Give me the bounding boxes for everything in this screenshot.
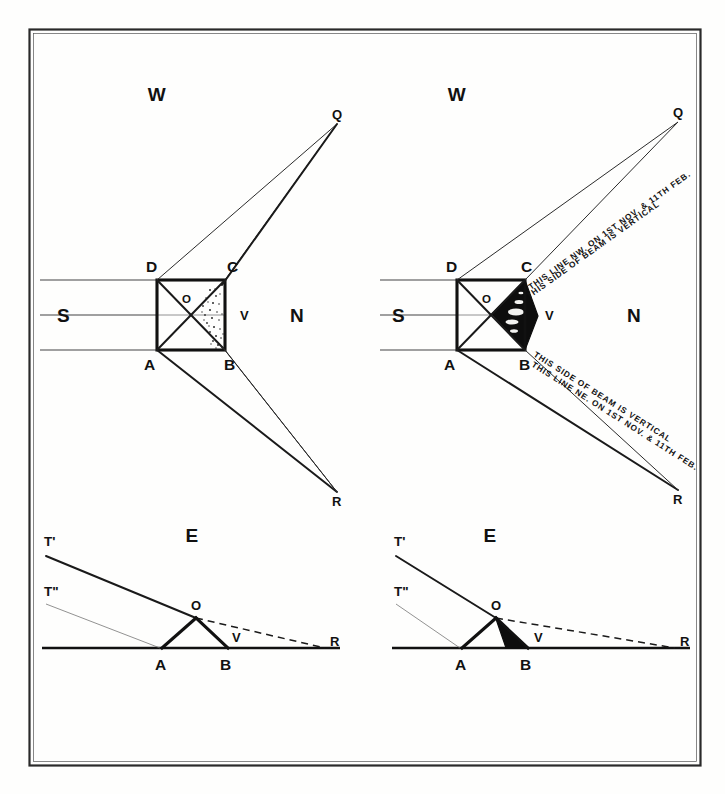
point-label-a-left: A	[144, 356, 155, 373]
point-label-t2-left: T"	[44, 584, 59, 599]
point-label-o-bl: O	[191, 598, 201, 613]
point-label-a-right: A	[444, 356, 455, 373]
compass-label-north-left: N	[290, 305, 304, 326]
point-label-a-br: A	[455, 656, 466, 673]
point-label-c-left: C	[227, 258, 238, 275]
point-label-v-left: V	[240, 308, 249, 323]
point-label-r-br: R	[680, 634, 690, 649]
point-label-t1-left: T'	[44, 534, 55, 549]
point-label-r-left: R	[332, 494, 342, 509]
point-label-q-right: Q	[673, 105, 683, 120]
figure-sheet: W S N D C A B O V Q R	[0, 0, 725, 794]
compass-label-north-right: N	[627, 305, 641, 326]
point-label-v-bl: V	[232, 630, 241, 645]
point-label-o-right: O	[482, 293, 491, 305]
elevation-heading-right: E	[483, 525, 496, 546]
compass-label-west-left: W	[148, 84, 166, 105]
compass-label-west-right: W	[448, 84, 466, 105]
paper-background	[0, 0, 725, 794]
point-label-d-right: D	[446, 258, 457, 275]
elevation-heading-left: E	[185, 525, 198, 546]
point-label-d-left: D	[146, 258, 157, 275]
point-label-b-left: B	[224, 356, 235, 373]
point-label-t2-right: T"	[394, 584, 409, 599]
point-label-r-bl: R	[330, 634, 340, 649]
compass-label-south-right: S	[392, 305, 405, 326]
diagram-canvas: W S N D C A B O V Q R	[0, 0, 725, 794]
point-label-q-left: Q	[332, 107, 342, 122]
point-label-t1-right: T'	[394, 534, 405, 549]
point-label-b-br: B	[520, 656, 531, 673]
point-label-o-left: O	[182, 293, 191, 305]
point-label-v-br: V	[534, 630, 543, 645]
point-label-c-right: C	[521, 258, 532, 275]
point-label-b-bl: B	[220, 656, 231, 673]
point-label-b-right: B	[519, 356, 530, 373]
point-label-o-br: O	[491, 598, 501, 613]
point-label-v-right: V	[545, 308, 554, 323]
compass-label-south-left: S	[57, 305, 70, 326]
point-label-r-right: R	[673, 492, 683, 507]
point-label-a-bl: A	[155, 656, 166, 673]
